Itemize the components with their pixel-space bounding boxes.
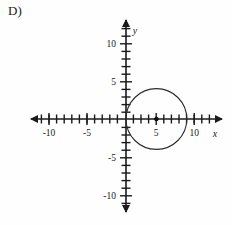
y-tick-label-neg5: -5 <box>108 153 116 163</box>
x-tick-label-10: 10 <box>189 128 199 138</box>
y-axis-bottom-arrowhead <box>122 205 130 213</box>
y-axis-group: 10 5 -5 -10 y <box>103 19 137 213</box>
coordinate-plane-graph: -10 -5 5 10 x <box>0 0 232 225</box>
x-axis-right-arrowhead <box>215 115 223 123</box>
y-tick-label-5: 5 <box>111 77 116 87</box>
x-tick-label-neg10: -10 <box>43 128 56 138</box>
y-tick-label-10: 10 <box>107 39 117 49</box>
x-tick-label-neg5: -5 <box>83 128 91 138</box>
circle-center-point <box>155 117 159 121</box>
graph-svg: -10 -5 5 10 x <box>0 0 232 225</box>
question-choice-panel: D) <box>0 0 232 225</box>
x-tick-label-5: 5 <box>154 128 159 138</box>
x-axis-name-label: x <box>212 128 218 139</box>
y-axis-top-arrowhead <box>122 19 130 27</box>
y-tick-label-neg10: -10 <box>103 191 116 201</box>
x-axis-left-arrowhead <box>30 115 38 123</box>
y-axis-name-label: y <box>132 25 138 36</box>
